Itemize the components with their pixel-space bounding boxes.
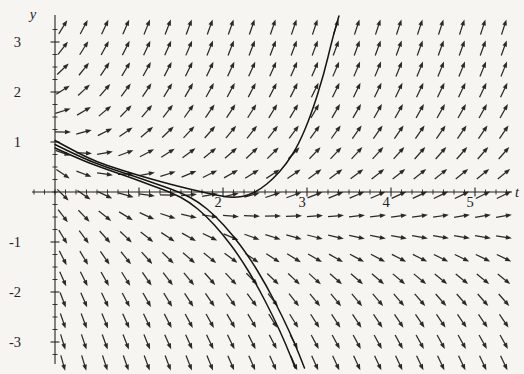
t-tick-label: 3 [298,194,305,210]
y-tick-label: 3 [14,34,21,50]
y-tick-label: 2 [14,84,21,100]
y-tick-label: -1 [9,234,21,250]
y-tick-label: 1 [14,134,21,150]
y-tick-label: -3 [9,334,21,350]
y-tick-label: -2 [9,284,21,300]
t-tick-label: 4 [382,194,390,210]
t-tick-label: 5 [466,194,473,210]
y-axis-label: y [28,6,37,22]
direction-field-figure: 2345321-1-2-3ty [0,0,524,374]
direction-field-plot: 2345321-1-2-3ty [0,0,524,374]
